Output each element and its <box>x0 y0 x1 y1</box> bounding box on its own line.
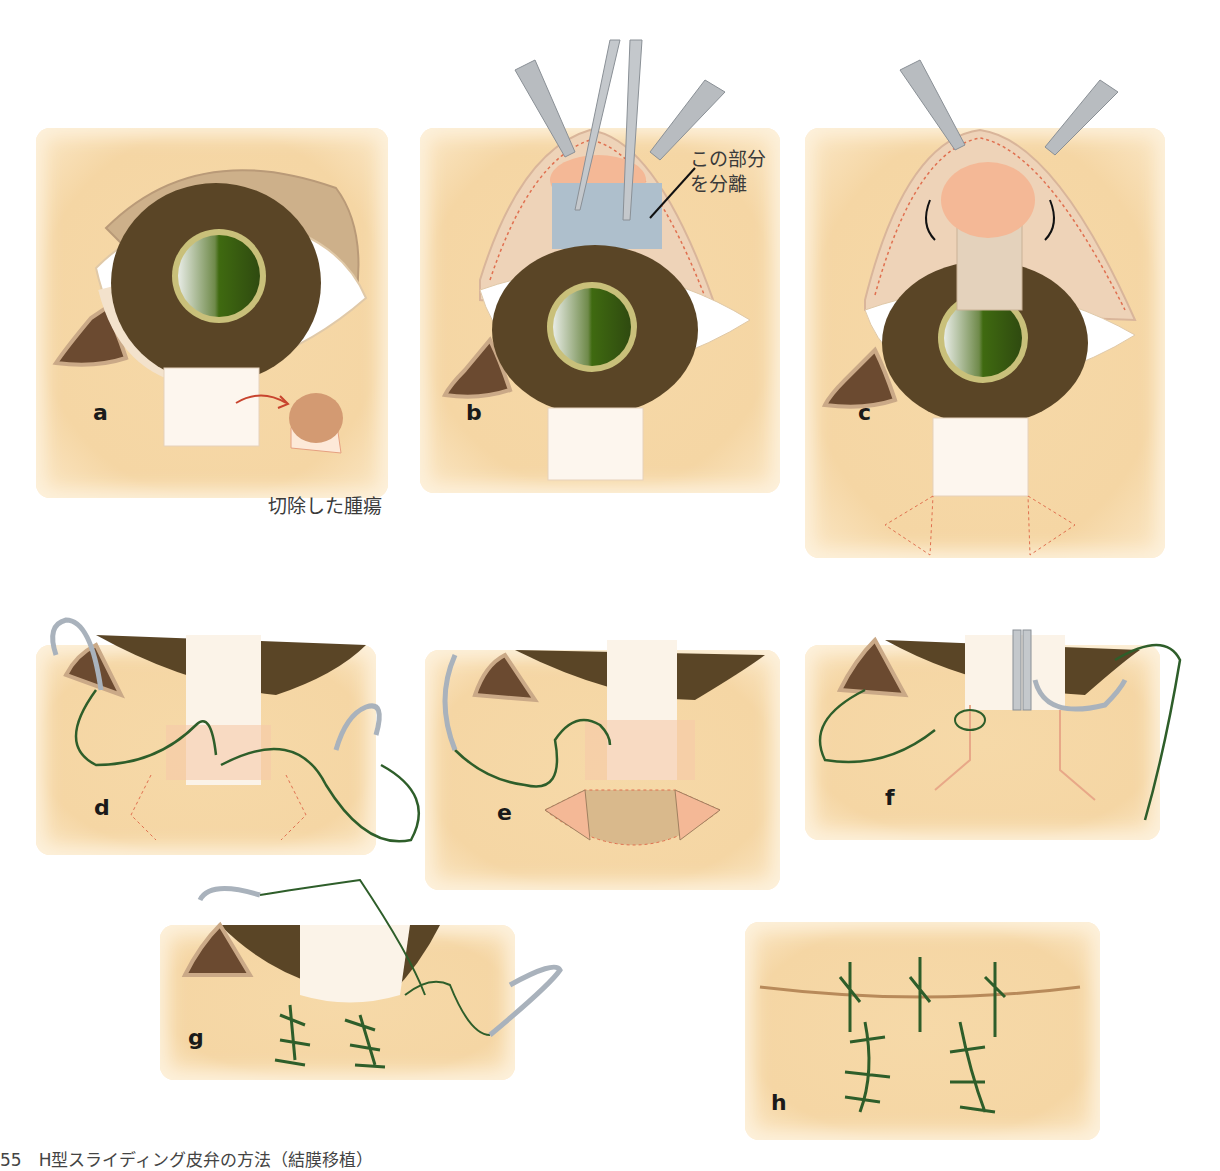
panel-h: h <box>745 922 1100 1140</box>
eye-illustration <box>805 40 1165 560</box>
suture-illustration <box>745 922 1100 1140</box>
figure-caption: 55 H型スライディング皮弁の方法（結膜移植） <box>0 1146 373 1171</box>
suture-illustration <box>805 620 1185 840</box>
panel-label-c: c <box>858 400 871 425</box>
panel-c: c <box>805 40 1165 560</box>
panel-label-g: g <box>188 1025 204 1050</box>
panel-label-e: e <box>497 800 512 825</box>
panel-a: a 切除した腫瘍 <box>36 128 388 498</box>
suture-knots <box>275 1005 385 1067</box>
suture-illustration <box>425 640 785 890</box>
panel-label-b: b <box>466 400 482 425</box>
separate-annotation-line2: を分離 <box>690 172 747 196</box>
suture-knots <box>840 957 1005 1112</box>
panel-f: f <box>805 620 1185 840</box>
panel-label-f: f <box>885 785 895 810</box>
tumor-annotation: 切除した腫瘍 <box>268 494 382 518</box>
needle-icon <box>490 967 560 1035</box>
panel-d: d <box>36 615 416 855</box>
eye-illustration <box>420 40 780 495</box>
separate-annotation-line1: この部分 <box>690 147 766 171</box>
panel-label-a: a <box>93 400 108 425</box>
panel-g: g <box>160 875 570 1080</box>
panel-label-d: d <box>94 795 110 820</box>
panel-b: この部分 を分離 b <box>420 40 780 495</box>
needle-icon <box>445 655 455 750</box>
eye-illustration <box>36 128 388 528</box>
needle-icon <box>200 889 260 900</box>
panel-e: e <box>425 640 785 890</box>
suture-illustration <box>160 875 570 1080</box>
panel-label-h: h <box>771 1090 787 1115</box>
